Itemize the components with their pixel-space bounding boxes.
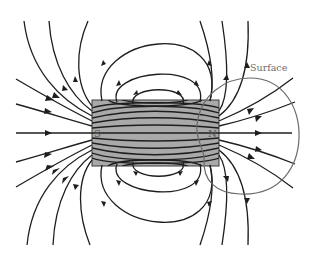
- bottom-field-loops: [101, 162, 212, 222]
- magnet-field-diagram: S N Surface: [0, 0, 314, 257]
- north-pole-label: N: [208, 128, 217, 139]
- south-pole-label: S: [94, 128, 101, 139]
- surface-label: Surface: [250, 62, 288, 73]
- top-field-loops: [101, 44, 212, 104]
- left-field-lines: [16, 21, 92, 245]
